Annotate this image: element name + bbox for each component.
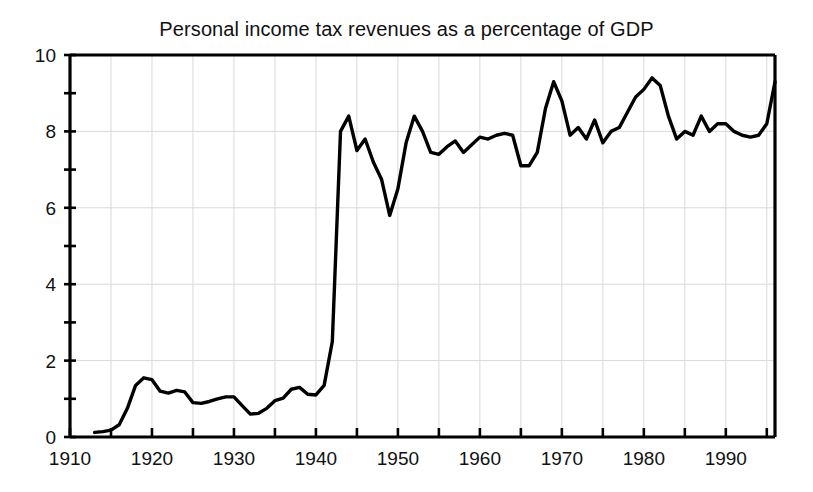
x-tick-label: 1990 bbox=[705, 448, 747, 469]
x-tick-label: 1910 bbox=[49, 448, 91, 469]
y-tick-label: 4 bbox=[45, 274, 56, 295]
y-tick-label: 0 bbox=[45, 427, 56, 448]
axis-tick-labels: 1910192019301940195019601970198019900246… bbox=[35, 45, 747, 469]
x-tick-label: 1960 bbox=[459, 448, 501, 469]
x-tick-label: 1970 bbox=[541, 448, 583, 469]
x-tick-label: 1950 bbox=[377, 448, 419, 469]
axis-ticks bbox=[64, 55, 767, 437]
y-tick-label: 8 bbox=[45, 121, 56, 142]
chart-figure: Personal income tax revenues as a percen… bbox=[0, 0, 813, 492]
y-tick-label: 2 bbox=[45, 351, 56, 372]
x-tick-label: 1930 bbox=[213, 448, 255, 469]
y-tick-label: 10 bbox=[35, 45, 56, 66]
line-chart-plot: 1910192019301940195019601970198019900246… bbox=[0, 0, 813, 492]
axis-frame bbox=[70, 55, 775, 437]
x-tick-label: 1920 bbox=[131, 448, 173, 469]
y-tick-label: 6 bbox=[45, 198, 56, 219]
x-tick-label: 1940 bbox=[295, 448, 337, 469]
x-tick-label: 1980 bbox=[623, 448, 665, 469]
horizontal-gridlines bbox=[70, 131, 775, 360]
